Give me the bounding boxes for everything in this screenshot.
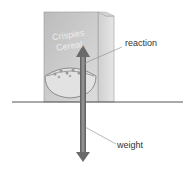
- weight-arrow: [76, 102, 90, 162]
- weight-label: weight: [117, 140, 143, 150]
- reaction-label: reaction: [125, 38, 157, 48]
- force-diagram: [0, 0, 190, 174]
- weight-leader-line: [85, 127, 116, 144]
